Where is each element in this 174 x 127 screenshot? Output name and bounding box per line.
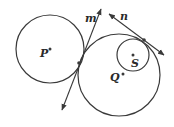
label-m: m: [85, 12, 97, 25]
center-q: [122, 73, 125, 76]
tangent-point-pq: [77, 61, 81, 65]
tangent-point-qs: [142, 38, 146, 42]
label-s: S: [131, 57, 139, 70]
label-n: n: [120, 10, 128, 23]
center-p: [49, 48, 52, 51]
label-p: P: [39, 47, 49, 60]
circles-diagram: P Q S m n: [0, 0, 174, 127]
label-q: Q: [110, 71, 120, 84]
